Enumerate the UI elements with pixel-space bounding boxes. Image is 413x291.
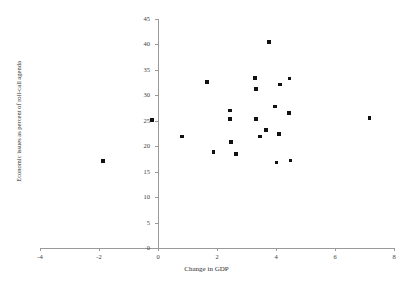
scatter-chart-figure: -4-202468 051015202530354045 Change in G… <box>0 0 413 291</box>
data-point <box>212 150 216 154</box>
x-tick-mark <box>158 248 159 251</box>
data-point <box>289 159 293 163</box>
data-point <box>273 105 277 109</box>
y-tick-label: 35 <box>128 66 150 74</box>
data-point <box>267 40 271 44</box>
y-tick-mark <box>155 121 158 122</box>
x-tick-mark <box>99 248 100 251</box>
y-tick-label: 5 <box>128 219 150 227</box>
y-axis-line <box>158 19 159 248</box>
plot-area: -4-202468 051015202530354045 Change in G… <box>0 0 413 291</box>
y-tick-label: 45 <box>128 15 150 23</box>
y-tick-label: 30 <box>128 91 150 99</box>
data-point <box>234 152 238 156</box>
data-point <box>278 83 282 87</box>
data-point <box>368 116 372 120</box>
x-tick-label: 2 <box>207 253 227 261</box>
y-tick-mark <box>155 70 158 71</box>
y-tick-label: 15 <box>128 168 150 176</box>
y-tick-mark <box>155 95 158 96</box>
x-tick-label: -4 <box>30 253 50 261</box>
x-tick-mark <box>276 248 277 251</box>
y-tick-label: 0 <box>128 244 150 252</box>
x-tick-label: 0 <box>148 253 168 261</box>
x-tick-mark <box>394 248 395 251</box>
data-point <box>150 118 154 122</box>
y-tick-label: 25 <box>128 117 150 125</box>
data-point <box>288 77 292 81</box>
data-point <box>258 135 262 139</box>
y-tick-mark <box>155 223 158 224</box>
x-tick-label: -2 <box>89 253 109 261</box>
x-tick-label: 4 <box>266 253 286 261</box>
x-tick-mark <box>217 248 218 251</box>
x-tick-mark <box>335 248 336 251</box>
data-point <box>277 132 281 136</box>
data-point <box>205 80 209 84</box>
data-point <box>253 76 257 80</box>
y-tick-label: 10 <box>128 193 150 201</box>
x-axis-title: Change in GDP <box>0 265 413 273</box>
x-tick-label: 6 <box>325 253 345 261</box>
data-point <box>101 159 105 163</box>
y-tick-label: 40 <box>128 40 150 48</box>
data-point <box>254 117 258 121</box>
y-tick-mark <box>155 19 158 20</box>
data-point <box>229 140 233 144</box>
data-point <box>264 128 268 132</box>
y-tick-mark <box>155 146 158 147</box>
data-point <box>180 135 184 139</box>
data-point <box>228 117 232 121</box>
x-tick-mark <box>40 248 41 251</box>
y-tick-mark <box>155 172 158 173</box>
data-point <box>287 111 291 115</box>
y-tick-mark <box>155 197 158 198</box>
y-tick-label: 20 <box>128 142 150 150</box>
data-point <box>254 87 258 91</box>
x-tick-label: 8 <box>384 253 404 261</box>
data-point <box>228 109 232 113</box>
y-tick-mark <box>155 44 158 45</box>
data-point <box>275 161 279 165</box>
y-axis-title: Economic issues as percent of roll-call … <box>15 42 22 202</box>
